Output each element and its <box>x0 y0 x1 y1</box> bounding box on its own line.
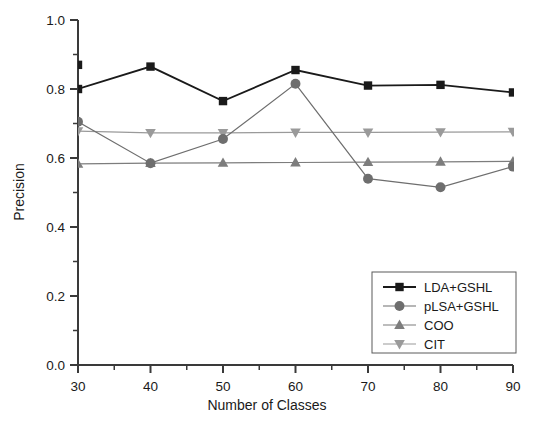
x-axis-title: Number of Classes <box>207 397 326 413</box>
x-tick-label: 60 <box>288 379 303 394</box>
data-point-marker <box>363 174 373 184</box>
x-tick-label: 30 <box>70 379 85 394</box>
y-tick-label: 1.0 <box>46 13 65 28</box>
y-tick-label: 0.2 <box>46 289 65 304</box>
legend-marker <box>395 301 405 311</box>
x-tick-label: 90 <box>505 379 520 394</box>
y-tick-label: 0.6 <box>46 151 65 166</box>
data-point-marker <box>218 134 228 144</box>
x-tick-label: 80 <box>433 379 448 394</box>
data-point-marker <box>291 66 299 74</box>
legend-label: pLSA+GSHL <box>424 299 499 314</box>
data-point-marker <box>291 79 301 89</box>
x-tick-label: 40 <box>143 379 158 394</box>
y-tick-label: 0.0 <box>46 358 65 373</box>
data-point-marker <box>146 62 154 70</box>
precision-vs-classes-chart: 0.00.20.40.60.81.0 30405060708090 Number… <box>0 0 534 432</box>
chart-svg: 0.00.20.40.60.81.0 30405060708090 Number… <box>0 0 534 432</box>
data-point-marker <box>436 81 444 89</box>
y-axis-title: Precision <box>11 163 27 221</box>
data-point-marker <box>146 158 156 168</box>
legend-label: COO <box>424 318 454 333</box>
data-point-marker <box>436 182 446 192</box>
legend-label: LDA+GSHL <box>424 280 492 295</box>
x-tick-label: 50 <box>215 379 230 394</box>
data-point-marker <box>219 97 227 105</box>
legend-label: CIT <box>424 337 445 352</box>
y-tick-label: 0.4 <box>46 220 65 235</box>
legend: LDA+GSHLpLSA+GSHLCOOCIT <box>372 272 516 353</box>
legend-marker <box>395 283 403 291</box>
x-tick-label: 70 <box>360 379 375 394</box>
y-tick-label: 0.8 <box>46 82 65 97</box>
data-point-marker <box>364 81 372 89</box>
